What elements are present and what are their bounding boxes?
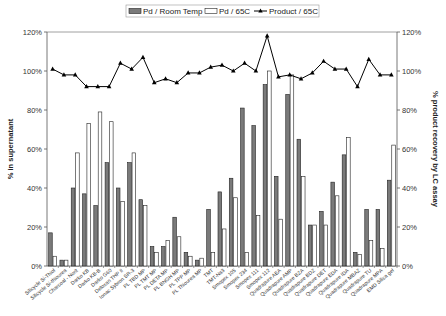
y2-tick-label: 0%: [402, 262, 413, 271]
bar-pd-65c: [189, 256, 193, 266]
bar-pd-65c: [380, 248, 384, 266]
point-product-65c: [163, 76, 168, 80]
chart: 0%0%20%20%40%40%60%60%80%80%100%100%120%…: [0, 0, 446, 316]
bar-pd-65c: [392, 145, 396, 266]
bar-pd-room-temp: [128, 163, 132, 266]
bar-pd-65c: [53, 256, 57, 266]
bar-pd-room-temp: [252, 126, 256, 266]
bar-pd-65c: [268, 71, 272, 266]
bar-pd-room-temp: [297, 139, 301, 266]
bar-pd-65c: [132, 153, 136, 266]
point-product-65c: [141, 55, 146, 59]
bar-pd-room-temp: [218, 192, 222, 266]
bar-pd-65c: [358, 254, 362, 266]
bar-pd-65c: [369, 241, 373, 266]
y2-tick-label: 100%: [402, 67, 422, 76]
point-product-65c: [366, 57, 371, 61]
bar-pd-room-temp: [387, 180, 391, 266]
bar-pd-65c: [290, 75, 294, 266]
bar-pd-room-temp: [320, 211, 324, 266]
y-tick-label: 0%: [31, 262, 42, 271]
bar-pd-room-temp: [241, 108, 245, 266]
bar-pd-room-temp: [49, 233, 53, 266]
point-product-65c: [242, 61, 247, 65]
bar-pd-room-temp: [83, 194, 87, 266]
bar-pd-65c: [234, 198, 238, 266]
legend-label-product-65c: Product / 65C: [269, 7, 318, 16]
bar-pd-65c: [87, 124, 91, 266]
bar-pd-room-temp: [308, 225, 312, 266]
bar-pd-room-temp: [71, 188, 75, 266]
bar-pd-65c: [121, 202, 125, 266]
bar-pd-room-temp: [116, 188, 120, 266]
bar-pd-room-temp: [173, 217, 177, 266]
bar-pd-65c: [256, 215, 260, 266]
bar-pd-65c: [222, 229, 226, 266]
point-product-65c: [254, 68, 259, 72]
y-tick-label: 100%: [23, 67, 43, 76]
bar-pd-room-temp: [195, 260, 199, 266]
bar-pd-room-temp: [105, 163, 109, 266]
point-product-65c: [50, 66, 55, 70]
y-axis-label: % in supernatant: [6, 118, 15, 179]
line-product-65c: [53, 36, 392, 87]
bar-pd-65c: [200, 258, 204, 266]
bar-pd-room-temp: [94, 206, 98, 266]
y2-tick-label: 120%: [402, 28, 422, 37]
bar-pd-65c: [279, 219, 283, 266]
bar-pd-65c: [109, 122, 113, 266]
bar-pd-65c: [155, 252, 159, 266]
legend-swatch-pd-room-temp: [129, 9, 141, 14]
y2-tick-label: 80%: [402, 106, 417, 115]
bar-pd-65c: [245, 252, 249, 266]
bar-pd-room-temp: [263, 85, 267, 266]
bar-pd-room-temp: [139, 200, 143, 266]
bar-pd-room-temp: [184, 252, 188, 266]
bar-pd-room-temp: [274, 176, 278, 266]
point-product-65c: [265, 33, 270, 37]
bar-pd-room-temp: [353, 252, 357, 266]
bar-pd-65c: [313, 225, 317, 266]
bar-pd-65c: [347, 137, 351, 266]
bar-pd-room-temp: [286, 94, 290, 266]
legend-label-pd-65c: Pd / 65C: [219, 7, 250, 16]
bar-pd-65c: [324, 225, 328, 266]
y-tick-label: 60%: [27, 145, 42, 154]
bar-pd-65c: [76, 153, 80, 266]
y2-axis-label: % product recovery by LC assay: [431, 91, 440, 208]
y-tick-label: 40%: [27, 184, 42, 193]
bar-pd-65c: [166, 241, 170, 266]
y2-tick-label: 20%: [402, 223, 417, 232]
legend-swatch-pd-65c: [205, 9, 217, 14]
bar-pd-room-temp: [150, 247, 154, 267]
bar-pd-65c: [211, 252, 215, 266]
bar-pd-65c: [177, 237, 181, 266]
y-tick-label: 120%: [23, 28, 43, 37]
legend-label-pd-room-temp: Pd / Room Temp: [143, 7, 203, 16]
y2-tick-label: 40%: [402, 184, 417, 193]
y-tick-label: 20%: [27, 223, 42, 232]
bar-pd-65c: [64, 260, 68, 266]
y2-tick-label: 60%: [402, 145, 417, 154]
bar-pd-65c: [335, 196, 339, 266]
bar-pd-65c: [98, 112, 102, 266]
bar-pd-65c: [143, 206, 147, 266]
bar-pd-room-temp: [60, 260, 64, 266]
bar-pd-room-temp: [207, 209, 211, 266]
point-product-65c: [220, 63, 225, 67]
bar-pd-65c: [301, 176, 305, 266]
point-product-65c: [118, 61, 123, 65]
bar-pd-room-temp: [229, 178, 233, 266]
bar-pd-room-temp: [162, 247, 166, 267]
bar-pd-room-temp: [342, 155, 346, 266]
point-product-65c: [287, 72, 292, 76]
point-product-65c: [321, 59, 326, 63]
bar-pd-room-temp: [365, 209, 369, 266]
y-tick-label: 80%: [27, 106, 42, 115]
bar-pd-room-temp: [331, 182, 335, 266]
bar-pd-room-temp: [376, 209, 380, 266]
